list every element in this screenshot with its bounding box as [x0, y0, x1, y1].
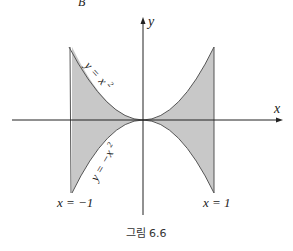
label-x-equals-1: x = 1	[202, 195, 231, 210]
x-axis-arrow-icon	[276, 118, 283, 123]
y-axis-arrow-icon	[141, 17, 146, 24]
y-axis-label: y	[146, 14, 155, 29]
x-axis-label: x	[273, 101, 281, 116]
top-partial-text: B	[78, 0, 86, 9]
label-x-equals-neg-1: x = −1	[56, 195, 93, 210]
figure-canvas: B y x y = x 2 y = −x 2 x = −1 x = 1 그림 6…	[0, 0, 293, 251]
figure-caption: 그림 6.6	[126, 227, 167, 240]
